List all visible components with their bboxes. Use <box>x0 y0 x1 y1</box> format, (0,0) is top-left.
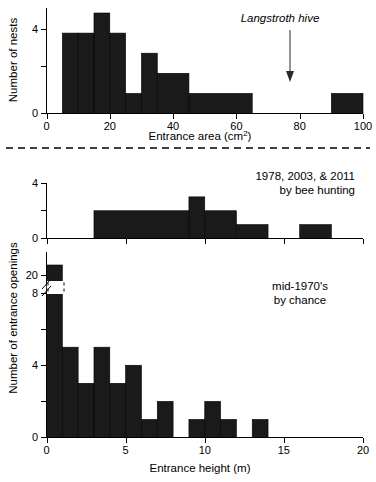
histogram-bar <box>94 211 189 239</box>
histogram-bar <box>331 93 363 113</box>
histogram-bar <box>157 73 189 113</box>
bee-hunting-line-1: 1978, 2003, & 2011 <box>255 170 355 182</box>
bottom-y-ticklabel-8: 8 <box>32 287 38 299</box>
bee-hunting-annotation: 1978, 2003, & 2011 by bee hunting <box>255 170 355 196</box>
middle-y-ticklabel-4: 4 <box>32 177 38 189</box>
histogram-bar <box>189 93 252 113</box>
x-ticklabel: 20 <box>104 120 116 132</box>
histogram-bar <box>189 419 205 437</box>
top-bars <box>62 13 363 114</box>
bottom-y-ticklabel-0: 0 <box>32 431 38 443</box>
x-ticklabel: 15 <box>278 444 290 456</box>
histogram-bar <box>221 419 237 437</box>
top-x-axis-title-base: Entrance area (cm <box>149 130 244 142</box>
middle-x-ticks <box>48 239 364 244</box>
mid-1970s-annotation: mid-1970's by chance <box>272 280 328 306</box>
bottom-x-ticks <box>48 438 364 443</box>
bottom-x-ticklabels: 05101520 <box>43 444 369 456</box>
x-ticklabel: 100 <box>354 120 372 132</box>
top-y-ticklabel-0: 0 <box>32 107 38 119</box>
langstroth-hive-annotation: Langstroth hive <box>241 12 320 82</box>
histogram-bar <box>78 383 94 437</box>
histogram-bar <box>126 365 142 437</box>
top-x-ticks <box>48 114 364 119</box>
top-x-axis-title-close: ) <box>248 130 252 142</box>
bottom-y-axis-title: Number of entrance openings <box>7 242 19 394</box>
bottom-y-ticklabel-20: 20 <box>26 269 38 281</box>
histogram-bar <box>205 401 221 437</box>
x-ticklabel: 5 <box>123 444 129 456</box>
top-y-axis-title: Number of nests <box>7 18 19 103</box>
langstroth-hive-label: Langstroth hive <box>241 12 320 24</box>
bottom-y-ticklabel-4: 4 <box>32 359 38 371</box>
histogram-bar <box>110 33 126 113</box>
x-ticklabel: 10 <box>199 444 211 456</box>
x-ticklabel: 0 <box>43 444 49 456</box>
bee-hunting-line-2: by bee hunting <box>280 184 355 196</box>
panel-top: 0 4 Number of nests 020406080100 Entranc… <box>7 8 372 142</box>
x-ticklabel: 0 <box>43 120 49 132</box>
histogram-bar <box>236 225 268 239</box>
langstroth-arrow-head-icon <box>286 71 294 82</box>
mid-1970s-line-1: mid-1970's <box>272 280 328 292</box>
bottom-x-axis-title: Entrance height (m) <box>150 462 251 474</box>
histogram-bar <box>78 33 94 113</box>
panel-bottom: 0 4 8 20 Number of entrance openings 051… <box>7 242 369 474</box>
histogram-bar <box>252 419 268 437</box>
middle-bars <box>94 197 331 239</box>
histogram-bar <box>300 225 332 239</box>
bottom-bars <box>47 265 269 438</box>
histogram-bar <box>141 419 157 437</box>
panel-middle: 0 4 1978, 2003, & 2011 by bee hunting <box>32 170 364 244</box>
middle-y-ticklabel-0: 0 <box>32 232 38 244</box>
histogram-bar <box>110 383 126 437</box>
histogram-bar <box>94 347 110 437</box>
histogram-bar <box>126 93 142 113</box>
top-x-axis-title: Entrance area (cm2) <box>149 129 252 142</box>
histogram-bar <box>189 197 205 239</box>
figure-root: 0 4 Number of nests 020406080100 Entranc… <box>0 0 376 482</box>
histogram-bar <box>157 401 173 437</box>
histogram-bar <box>94 13 110 114</box>
top-y-ticklabel-4: 4 <box>32 23 38 35</box>
histogram-bar <box>205 211 237 239</box>
histogram-bar <box>141 53 157 113</box>
mid-1970s-line-2: by chance <box>274 294 326 306</box>
x-ticklabel: 80 <box>294 120 306 132</box>
histogram-bar <box>62 347 78 437</box>
histogram-bar <box>62 33 78 113</box>
x-ticklabel: 20 <box>357 444 369 456</box>
